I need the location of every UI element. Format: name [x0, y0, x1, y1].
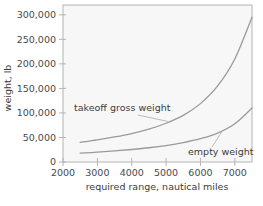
y-tick-label-300000: 300,000	[17, 9, 56, 20]
empty-weight-label: empty weight	[188, 146, 254, 157]
x-tick-label-5000: 5000	[154, 167, 178, 178]
x-tick-label-6000: 6000	[188, 167, 212, 178]
y-tick-label-50000: 50,000	[23, 132, 56, 143]
weight-vs-range-chart: 050,000100,000150,000200,000250,000300,0…	[0, 0, 263, 206]
x-tick-label-3000: 3000	[85, 167, 109, 178]
y-tick-label-150000: 150,000	[17, 83, 56, 94]
plot-area-background	[63, 5, 252, 162]
takeoff-gross-weight-label: takeoff gross weight	[74, 102, 171, 113]
y-axis-tick-labels: 050,000100,000150,000200,000250,000300,0…	[17, 9, 56, 167]
y-tick-label-100000: 100,000	[17, 107, 56, 118]
x-axis-title: required range, nautical miles	[86, 181, 229, 192]
chart-figure: 050,000100,000150,000200,000250,000300,0…	[0, 0, 263, 206]
x-tick-label-4000: 4000	[120, 167, 144, 178]
y-tick-label-250000: 250,000	[17, 34, 56, 45]
x-tick-label-7000: 7000	[223, 167, 247, 178]
x-tick-label-2000: 2000	[51, 167, 75, 178]
x-axis-tick-labels: 200030004000500060007000	[51, 167, 247, 178]
y-axis-title: weight, lb	[2, 65, 13, 112]
y-tick-label-200000: 200,000	[17, 58, 56, 69]
y-tick-label-0: 0	[50, 156, 56, 167]
